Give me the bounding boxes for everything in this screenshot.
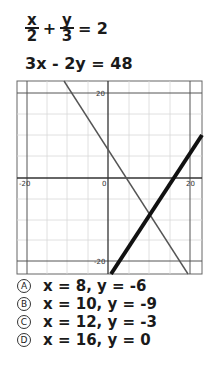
choice-bubble-b[interactable]: B	[17, 297, 31, 311]
answer-choice-a[interactable]: A x = 8, y = -6	[17, 277, 157, 295]
answer-text: x = 12, y = -3	[43, 313, 157, 331]
answer-choice-b[interactable]: B x = 10, y = -9	[17, 295, 157, 313]
answer-text: x = 16, y = 0	[43, 331, 151, 349]
x-label-neg20: -20	[19, 180, 30, 188]
answer-choices: A x = 8, y = -6 B x = 10, y = -9 C x = 1…	[17, 277, 157, 349]
answer-text: x = 8, y = -6	[43, 277, 147, 295]
answer-choice-d[interactable]: D x = 16, y = 0	[17, 331, 157, 349]
answer-choice-c[interactable]: C x = 12, y = -3	[17, 313, 157, 331]
answer-text: x = 10, y = -9	[43, 295, 157, 313]
choice-bubble-d[interactable]: D	[17, 333, 31, 347]
y-label-20: 20	[96, 90, 105, 98]
x-label-20: 20	[186, 180, 195, 188]
choice-bubble-a[interactable]: A	[17, 279, 31, 293]
origin-label: 0	[102, 180, 106, 188]
choice-bubble-c[interactable]: C	[17, 315, 31, 329]
y-label-neg20: -20	[94, 258, 105, 266]
